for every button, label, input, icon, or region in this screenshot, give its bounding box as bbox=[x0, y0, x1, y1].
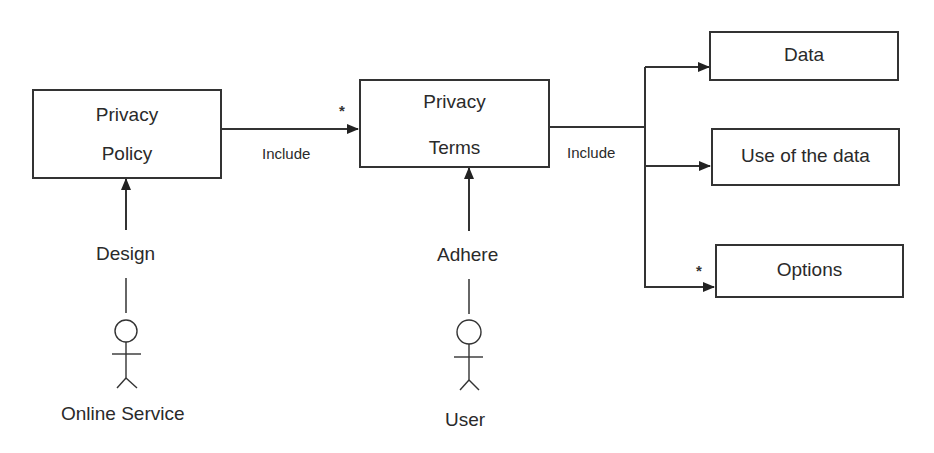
privacy-terms-line1: Privacy bbox=[361, 91, 548, 113]
include-label-2: Include bbox=[567, 144, 615, 161]
include-label-1: Include bbox=[262, 145, 310, 162]
privacy-policy-box: Privacy Policy bbox=[32, 89, 222, 179]
privacy-policy-line2: Policy bbox=[34, 143, 220, 165]
multiplicity-star-options: * bbox=[696, 262, 702, 279]
use-of-data-label: Use of the data bbox=[713, 145, 898, 167]
privacy-terms-line2: Terms bbox=[361, 138, 548, 158]
adhere-label: Adhere bbox=[437, 244, 498, 266]
use-of-data-box: Use of the data bbox=[711, 128, 900, 186]
privacy-terms-box: Privacy Terms bbox=[359, 79, 550, 168]
multiplicity-star-terms: * bbox=[339, 102, 345, 119]
data-box: Data bbox=[709, 31, 899, 81]
design-label: Design bbox=[96, 243, 155, 265]
actor-online-service-label: Online Service bbox=[61, 403, 185, 425]
options-box: Options bbox=[715, 244, 904, 298]
privacy-policy-line1: Privacy bbox=[34, 104, 220, 126]
options-label: Options bbox=[717, 259, 902, 281]
actor-user-label: User bbox=[445, 409, 485, 431]
data-label: Data bbox=[711, 44, 897, 66]
actor-online-service-figure bbox=[112, 320, 141, 388]
actor-user-figure bbox=[454, 320, 483, 390]
